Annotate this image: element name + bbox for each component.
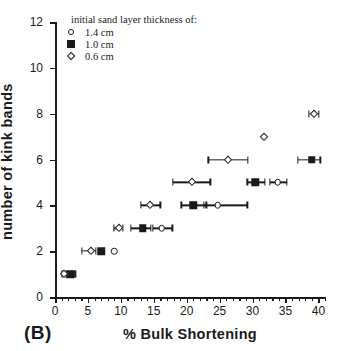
- data-point: [224, 156, 230, 162]
- x-tick-minor: [81, 297, 82, 301]
- x-tick-minor: [193, 297, 194, 301]
- x-tick-minor: [312, 297, 313, 301]
- x-tick-10: [121, 297, 123, 303]
- y-tick-label-8: 8: [36, 108, 43, 120]
- y-tick-6: 6: [50, 160, 55, 162]
- error-bar-cap: [160, 202, 161, 209]
- legend-entry-1-0-cm: 1.0 cm: [63, 38, 197, 50]
- panel-label: (B): [24, 322, 52, 344]
- error-bar-cap: [269, 179, 270, 186]
- x-tick-minor: [114, 297, 115, 301]
- x-tick-label-0: 0: [52, 305, 59, 317]
- data-point: [214, 202, 221, 209]
- x-tick-minor: [62, 297, 63, 301]
- error-bar-cap: [297, 156, 298, 163]
- x-tick-40: [318, 297, 320, 303]
- error-bar: [204, 205, 247, 206]
- error-bar-cap: [208, 156, 209, 163]
- y-axis-line: [55, 22, 57, 297]
- data-point: [189, 179, 195, 185]
- error-bar-cap: [320, 156, 321, 163]
- error-bar-cap: [74, 271, 75, 278]
- data-point: [274, 179, 281, 186]
- plot-area: 024681012 0510152025303540: [55, 22, 325, 297]
- y-tick-label-0: 0: [36, 291, 43, 303]
- x-tick-label-25: 25: [213, 305, 226, 317]
- x-tick-minor: [305, 297, 306, 301]
- error-bar-cap: [152, 225, 153, 232]
- x-tick-minor: [206, 297, 207, 301]
- data-point: [61, 271, 67, 277]
- data-point: [311, 111, 317, 117]
- x-tick-minor: [134, 297, 135, 301]
- x-tick-minor: [200, 297, 201, 301]
- x-tick-minor: [325, 297, 326, 301]
- x-tick-minor: [213, 297, 214, 301]
- data-point: [251, 179, 259, 187]
- y-tick-2: 2: [50, 251, 55, 253]
- x-tick-label-30: 30: [246, 305, 259, 317]
- x-tick-label-20: 20: [180, 305, 193, 317]
- y-tick-4: 4: [50, 205, 55, 207]
- data-point: [308, 156, 316, 164]
- x-tick-minor: [167, 297, 168, 301]
- error-bar-cap: [172, 225, 173, 232]
- error-bar-cap: [247, 202, 248, 209]
- x-tick-20: [187, 297, 189, 303]
- x-tick-minor: [160, 297, 161, 301]
- error-bar-cap: [181, 202, 182, 209]
- x-tick-minor: [226, 297, 227, 301]
- data-point: [116, 225, 122, 231]
- x-tick-35: [285, 297, 287, 303]
- x-tick-5: [88, 297, 90, 303]
- error-bar-cap: [140, 202, 141, 209]
- error-bar-cap: [81, 248, 82, 255]
- x-tick-15: [154, 297, 156, 303]
- y-tick-12: 12: [50, 22, 55, 24]
- x-tick-minor: [141, 297, 142, 301]
- error-bar-cap: [286, 179, 287, 186]
- figure-panel-b: (B) number of kink bands % Bulk Shorteni…: [0, 0, 343, 351]
- legend-entry-1-4-cm: 1.4 cm: [63, 26, 197, 38]
- legend: initial sand layer thickness of: 1.4 cm1…: [63, 14, 197, 62]
- open-diamond-icon: [63, 53, 79, 59]
- x-tick-0: [55, 297, 57, 303]
- data-point: [139, 225, 147, 233]
- data-point: [261, 133, 267, 139]
- data-point: [158, 225, 165, 232]
- y-tick-label-2: 2: [36, 245, 43, 257]
- x-axis-title: % Bulk Shortening: [55, 326, 325, 342]
- x-tick-minor: [279, 297, 280, 301]
- error-bar-cap: [210, 179, 211, 186]
- x-tick-label-35: 35: [279, 305, 292, 317]
- x-tick-minor: [127, 297, 128, 301]
- x-tick-label-10: 10: [114, 305, 127, 317]
- x-tick-minor: [246, 297, 247, 301]
- error-bar-cap: [130, 225, 131, 232]
- y-tick-label-6: 6: [36, 154, 43, 166]
- x-tick-25: [220, 297, 222, 303]
- x-tick-minor: [75, 297, 76, 301]
- x-tick-30: [253, 297, 255, 303]
- y-tick-label-10: 10: [30, 62, 43, 74]
- error-bar-cap: [264, 179, 265, 186]
- x-tick-label-5: 5: [85, 305, 92, 317]
- x-tick-label-40: 40: [312, 305, 325, 317]
- error-bar-cap: [247, 156, 248, 163]
- error-bar-cap: [206, 202, 207, 209]
- x-tick-minor: [233, 297, 234, 301]
- legend-title: initial sand layer thickness of:: [71, 14, 197, 25]
- error-bar-cap: [172, 179, 173, 186]
- legend-label: 0.6 cm: [85, 51, 114, 62]
- data-point: [111, 248, 118, 255]
- x-tick-minor: [239, 297, 240, 301]
- data-point: [147, 202, 153, 208]
- data-point: [88, 248, 94, 254]
- error-bar-cap: [247, 179, 248, 186]
- open-circle-icon: [63, 29, 79, 36]
- x-tick-minor: [95, 297, 96, 301]
- y-tick-10: 10: [50, 68, 55, 70]
- x-tick-minor: [259, 297, 260, 301]
- x-tick-minor: [266, 297, 267, 301]
- x-tick-label-15: 15: [147, 305, 160, 317]
